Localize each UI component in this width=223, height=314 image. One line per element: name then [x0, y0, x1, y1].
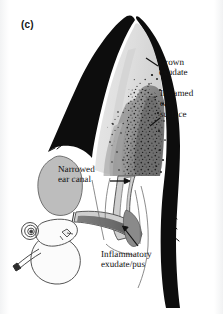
- annotation-inflamed-ear-surface: Inflamed ear surface: [160, 88, 222, 119]
- panel-label: (c): [21, 19, 34, 30]
- figure-panel-c: (c) Brown exudate Inflamed ear surface N…: [0, 0, 223, 314]
- annotation-brown-exudate: Brown exudate: [159, 57, 221, 78]
- annotation-inflammatory-exudate-pus: Inflammatory exudate/pus: [101, 249, 193, 270]
- annotation-narrowed-ear-canal: Narrowed ear canal: [58, 164, 128, 185]
- cochlea-spiral: [22, 223, 39, 240]
